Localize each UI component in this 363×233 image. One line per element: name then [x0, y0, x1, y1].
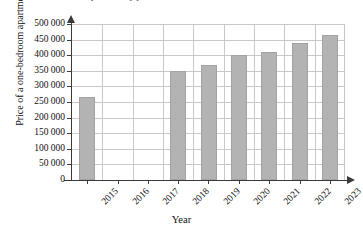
y-tick-mark: [67, 102, 72, 103]
bar-2019: [201, 65, 217, 180]
y-tick-mark: [67, 55, 72, 56]
x-axis-line: [64, 180, 347, 181]
x-tick-label-2022: 2022: [312, 186, 333, 207]
plot-area: [72, 24, 345, 180]
bar-2021: [261, 52, 277, 180]
x-tick-label-2017: 2017: [160, 186, 181, 207]
x-tick-mark: [330, 180, 331, 184]
bar-chart-figure: Price of a one-bedroom apartment by year…: [0, 0, 363, 233]
gridline-vertical: [224, 24, 225, 180]
y-tick-mark: [67, 149, 72, 150]
x-tick-mark: [118, 180, 119, 184]
x-tick-mark: [269, 180, 270, 184]
y-tick-label: 450 000: [34, 35, 65, 45]
gridline-vertical: [133, 24, 134, 180]
y-tick-label: 50 000: [39, 159, 65, 169]
gridline-vertical: [254, 24, 255, 180]
y-tick-mark: [67, 86, 72, 87]
gridline-vertical: [315, 24, 316, 180]
y-tick-mark: [67, 164, 72, 165]
x-tick-mark: [208, 180, 209, 184]
bar-2023: [322, 35, 338, 180]
x-tick-label-2023: 2023: [342, 186, 363, 207]
gridline-vertical: [163, 24, 164, 180]
x-tick-mark: [87, 180, 88, 184]
y-tick-label: 100 000: [34, 144, 65, 154]
x-tick-label-2021: 2021: [282, 186, 303, 207]
y-tick-mark: [67, 133, 72, 134]
bar-2020: [231, 55, 247, 180]
x-tick-label-2020: 2020: [251, 186, 272, 207]
y-tick-mark: [67, 40, 72, 41]
gridline-vertical: [284, 24, 285, 180]
y-tick-mark: [67, 71, 72, 72]
x-tick-mark: [300, 180, 301, 184]
bar-2018: [170, 71, 186, 180]
y-tick-mark: [67, 180, 72, 181]
gridline-horizontal: [72, 40, 345, 41]
y-tick-label: 400 000: [34, 50, 65, 60]
y-tick-label: 500 000: [34, 19, 65, 29]
y-axis-title: Price of a one-bedroom apartment: [14, 0, 25, 133]
x-tick-label-2019: 2019: [221, 186, 242, 207]
y-tick-mark: [67, 118, 72, 119]
x-tick-label-2016: 2016: [130, 186, 151, 207]
gridline-horizontal: [72, 24, 345, 25]
clipped-caption-strip: Price of a one-bedroom apartment by year: [0, 0, 363, 9]
y-tick-label: 200 000: [34, 113, 65, 123]
x-tick-mark: [239, 180, 240, 184]
x-axis-arrow-icon: [347, 176, 355, 184]
gridline-vertical: [102, 24, 103, 180]
y-tick-label: 350 000: [34, 66, 65, 76]
x-tick-label-2015: 2015: [100, 186, 121, 207]
x-tick-label-2018: 2018: [191, 186, 212, 207]
y-axis-arrow-icon: [67, 15, 75, 23]
bar-2022: [292, 43, 308, 180]
gridline-vertical: [193, 24, 194, 180]
x-tick-mark: [148, 180, 149, 184]
y-tick-label: 150 000: [34, 128, 65, 138]
x-tick-mark: [178, 180, 179, 184]
x-axis-title: Year: [0, 214, 363, 225]
y-tick-label: 0: [60, 175, 65, 185]
y-tick-label: 250 000: [34, 97, 65, 107]
y-tick-label: 300 000: [34, 81, 65, 91]
bar-2015: [79, 97, 95, 180]
y-tick-mark: [67, 24, 72, 25]
